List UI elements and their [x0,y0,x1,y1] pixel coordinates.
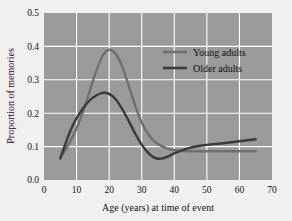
legend-label-1: Young adults [193,47,246,58]
x-axis-title: Age (years) at time of event [102,202,214,214]
y-tick-label: 0.2 [27,109,39,119]
plot-area-background [44,13,272,180]
x-tick-label: 30 [137,185,147,195]
x-tick-label: 20 [104,185,114,195]
x-tick-label: 50 [202,185,212,195]
x-tick-label: 0 [42,185,47,195]
y-axis-title: Proportion of memories [5,48,16,144]
y-tick-label: 0.3 [27,75,39,85]
x-tick-label: 10 [72,185,82,195]
y-tick-label: 0.5 [27,8,39,18]
line-chart: 010203040506070 0.00.10.20.30.40.5 Age (… [0,0,292,221]
legend-label-2: Older adults [193,63,242,74]
x-tick-label: 60 [235,185,245,195]
x-tick-label: 40 [170,185,180,195]
y-tick-label: 0.4 [27,42,39,52]
figure-container: 010203040506070 0.00.10.20.30.40.5 Age (… [0,0,292,221]
x-tick-label: 70 [267,185,277,195]
y-tick-label: 0.1 [27,142,39,152]
y-tick-label: 0.0 [27,175,39,185]
